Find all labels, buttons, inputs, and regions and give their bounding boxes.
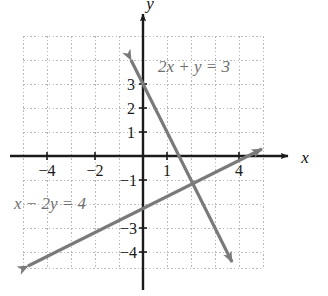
graph-canvas: x y −4 −2 1 4 3 2 1 −1 −3 −4 2x + y = 3 … <box>0 0 328 296</box>
coordinate-plane-figure: x y −4 −2 1 4 3 2 1 −1 −3 −4 2x + y = 3 … <box>0 0 328 296</box>
y-tick-label--3: −3 <box>120 220 137 237</box>
y-tick-label--1: −1 <box>120 172 137 189</box>
equation-label-line-2: x − 2y = 4 <box>13 194 87 213</box>
equation-label-line-1: 2x + y = 3 <box>158 57 230 76</box>
x-tick-label-1: 1 <box>163 162 171 179</box>
y-tick-label-1: 1 <box>127 124 135 141</box>
y-tick-label-2: 2 <box>127 100 135 117</box>
x-tick-label--4: −4 <box>38 162 55 179</box>
y-tick-label--4: −4 <box>120 244 137 261</box>
x-tick-label--2: −2 <box>86 162 103 179</box>
x-tick-label-4: 4 <box>235 162 243 179</box>
x-axis-label: x <box>300 148 309 167</box>
y-axis-label: y <box>144 0 154 13</box>
y-tick-label-3: 3 <box>127 76 135 93</box>
series-line-2x-plus-y-equals-3 <box>131 60 232 262</box>
